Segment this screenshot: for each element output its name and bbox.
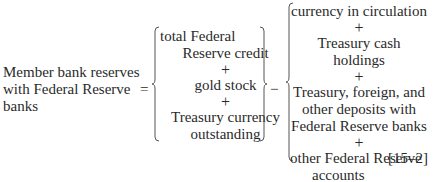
lhs-line: with Federal Reserve — [3, 81, 140, 98]
plus-sign: + — [290, 135, 428, 150]
lhs-line: banks — [3, 98, 140, 115]
equals-sign: = — [140, 81, 148, 98]
term: Federal Reserve banks — [290, 118, 428, 135]
minus-sign: − — [270, 81, 278, 98]
term: currency in circulation — [290, 3, 428, 20]
term: outstanding — [158, 126, 293, 143]
equation-lhs: Member bank reserves with Federal Reserv… — [3, 64, 140, 115]
lhs-line: Member bank reserves — [3, 64, 140, 81]
plus-sign: + — [290, 20, 428, 35]
equation-number: [15–2] — [388, 150, 428, 167]
term: other deposits with — [290, 101, 428, 118]
term: Treasury currency — [158, 109, 293, 126]
term: accounts — [290, 167, 428, 182]
plus-sign: + — [158, 62, 293, 77]
term: total Federal — [158, 28, 293, 45]
term: Treasury cash holdings — [290, 35, 428, 69]
right-brace-icon — [258, 26, 268, 142]
plus-sign: + — [290, 69, 428, 84]
term: Reserve credit — [158, 45, 293, 62]
term: Treasury, foreign, and — [290, 84, 428, 101]
